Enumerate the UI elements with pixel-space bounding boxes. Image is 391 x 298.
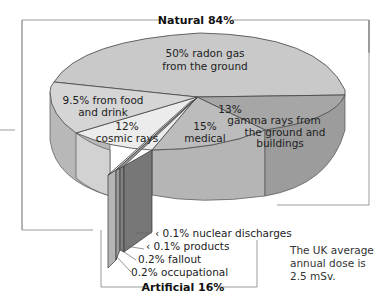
products-label: ‹ 0.1% products xyxy=(146,240,229,252)
gamma-label-4: buildings xyxy=(256,137,304,149)
radon-label-2: from the ground xyxy=(162,60,248,72)
natural-label: Natural 84% xyxy=(158,14,235,27)
annotation-line-3: 2.5 mSv. xyxy=(290,270,390,283)
annotation-line-2: annual dose is xyxy=(290,257,390,270)
gamma-label-2: gamma rays from xyxy=(227,114,321,126)
cosmic-label-2: cosmic rays xyxy=(96,132,158,144)
annotation-line-1: The UK average xyxy=(290,244,390,257)
cosmic-label: 12% xyxy=(115,120,138,132)
nuclear-label: ‹ 0.1% nuclear discharges xyxy=(155,227,292,239)
artificial-label: Artificial 16% xyxy=(142,281,225,294)
fallout-label: 0.2% fallout xyxy=(138,253,201,265)
food-label: 9.5% from food xyxy=(63,94,144,106)
medical-label: 15% xyxy=(193,120,216,132)
annotation: The UK average annual dose is 2.5 mSv. xyxy=(290,244,390,283)
food-label-2: and drink xyxy=(78,106,129,118)
medical-label-2: medical xyxy=(184,132,225,144)
occupational-label: 0.2% occupational xyxy=(131,266,228,278)
radon-label: 50% radon gas xyxy=(165,47,244,59)
